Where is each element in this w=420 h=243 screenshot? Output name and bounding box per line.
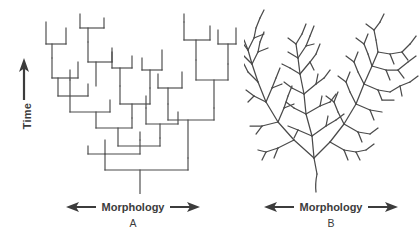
panel-a-tree	[44, 8, 244, 194]
caption-a-label: Morphology	[102, 201, 165, 213]
panel-b-tree	[244, 8, 420, 194]
panel-b-letter: B	[246, 217, 416, 229]
diagonal-tree-svg	[244, 8, 420, 194]
figure-container: Time	[0, 0, 420, 243]
caption-b-row: Morphology	[246, 200, 416, 214]
arrow-right-icon	[368, 201, 398, 213]
time-axis-label: Time	[21, 76, 33, 156]
arrow-right-icon	[170, 201, 200, 213]
time-axis: Time	[10, 58, 44, 178]
rectangular-cladogram-svg	[44, 8, 244, 194]
caption-b: Morphology B	[246, 200, 416, 229]
tree-a-branches	[46, 14, 236, 194]
tree-b-branches	[244, 10, 418, 192]
caption-b-label: Morphology	[300, 201, 363, 213]
caption-a-row: Morphology	[48, 200, 218, 214]
arrow-left-icon	[66, 201, 96, 213]
caption-a: Morphology A	[48, 200, 218, 229]
arrow-left-icon	[264, 201, 294, 213]
panel-a-letter: A	[48, 217, 218, 229]
